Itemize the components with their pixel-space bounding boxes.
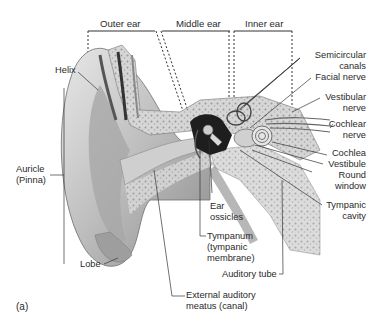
label-vestibular-line1: Vestibular (325, 92, 366, 103)
label-auricle: Auricle (Pinna) (16, 164, 46, 186)
label-facial-nerve: Facial nerve (315, 72, 366, 83)
label-vestibular-nerve: Vestibular nerve (325, 92, 366, 114)
label-semicircular-canals: Semicircular canals (315, 50, 366, 72)
label-eam-line2: meatus (canal) (186, 301, 256, 312)
label-round-line2: window (335, 181, 366, 192)
label-external-auditory-meatus: External auditory meatus (canal) (186, 290, 256, 312)
label-cochlear-line1: Cochlear (329, 119, 366, 130)
label-eam-line1: External auditory (186, 290, 256, 301)
label-tympanic-cavity: Tympanic cavity (326, 200, 366, 222)
label-semicircular-line1: Semicircular (315, 50, 366, 61)
cochlea-shape (252, 126, 272, 146)
label-ear-ossicles-line2: ossicles (210, 212, 243, 223)
label-auricle-line2: (Pinna) (16, 175, 46, 186)
panel-label: (a) (16, 301, 28, 312)
region-label-outer-ear: Outer ear (100, 18, 141, 29)
label-auditory-tube: Auditory tube (222, 269, 277, 280)
label-cochlear-nerve: Cochlear nerve (329, 119, 366, 141)
label-cochlea: Cochlea (332, 148, 366, 159)
label-ear-ossicles-line1: Ear (210, 201, 243, 212)
ear-anatomy-figure: Outer ear Middle ear Inner ear Helix Aur… (0, 0, 384, 331)
label-vestibular-line2: nerve (325, 103, 366, 114)
label-tympanic-line2: cavity (326, 211, 366, 222)
label-tympanum-line3: membrane) (207, 253, 255, 264)
label-round-window: Round window (335, 170, 366, 192)
label-lobe: Lobe (80, 259, 101, 270)
label-helix: Helix (55, 65, 76, 76)
label-tympanum-line1: Tympanum (207, 231, 255, 242)
region-label-middle-ear: Middle ear (176, 18, 221, 29)
label-tympanic-line1: Tympanic (326, 200, 366, 211)
region-label-inner-ear: Inner ear (245, 18, 283, 29)
label-semicircular-line2: canals (315, 61, 366, 72)
label-tympanum-line2: (tympanic (207, 242, 255, 253)
label-cochlear-line2: nerve (329, 130, 366, 141)
label-ear-ossicles: Ear ossicles (210, 201, 243, 223)
label-round-line1: Round (335, 170, 366, 181)
label-vestibule: Vestibule (328, 159, 366, 170)
label-tympanum: Tympanum (tympanic membrane) (207, 231, 255, 264)
label-auricle-line1: Auricle (16, 164, 46, 175)
